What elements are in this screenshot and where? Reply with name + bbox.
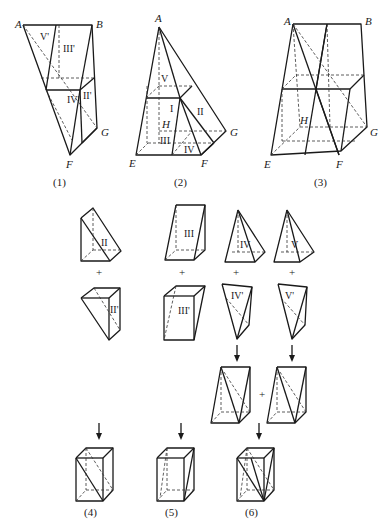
caption-4: (4): [84, 506, 97, 519]
part-label: V': [40, 31, 49, 42]
point-label-G: G: [101, 126, 109, 138]
part-label: V: [291, 239, 299, 250]
part-label: IV: [240, 239, 251, 250]
point-label-B: B: [365, 15, 372, 27]
point-label-H: H: [161, 118, 171, 130]
plus-sign: +: [179, 266, 185, 278]
point-label-F: F: [200, 157, 208, 169]
point-label-F: F: [65, 158, 73, 170]
caption-5: (5): [165, 506, 178, 519]
arrow-down-icon: [256, 423, 262, 440]
point-label-G: G: [370, 126, 378, 138]
piece-V-prime: V': [278, 284, 307, 339]
part-label: IV': [231, 290, 244, 301]
part-label: II: [197, 106, 204, 117]
part-label: II: [101, 237, 108, 248]
figure-5: (5): [157, 448, 194, 519]
arrow-down-icon: [96, 423, 102, 440]
part-label: III': [63, 43, 75, 54]
piece-IV: IV: [225, 210, 265, 262]
point-label-A: A: [14, 18, 22, 30]
part-label: IV': [67, 94, 80, 105]
caption-1: (1): [53, 176, 66, 189]
figure-4: (4): [76, 448, 113, 519]
combined-prism-IV: [211, 367, 250, 423]
point-label-F: F: [335, 158, 343, 170]
figure-6: (6): [237, 448, 274, 519]
figure-1: A B F G V' III' IV' II' (1): [14, 18, 109, 189]
piece-III: III: [165, 205, 205, 260]
plus-sign: +: [96, 266, 102, 278]
piece-II-prime: II': [81, 288, 120, 340]
point-label-G: G: [230, 126, 238, 138]
plus-sign: +: [289, 266, 295, 278]
part-label: I: [170, 103, 173, 114]
part-label: III: [160, 135, 170, 146]
part-label: II': [83, 90, 92, 101]
part-label: V: [161, 73, 169, 84]
arrow-down-icon: [234, 345, 240, 362]
point-label-B: B: [96, 18, 103, 30]
geometry-diagram: A B F G V' III' IV' II' (1) A E F G H V …: [0, 0, 383, 531]
plus-sign: +: [259, 388, 265, 400]
point-label-A: A: [283, 15, 291, 27]
caption-6: (6): [245, 506, 258, 519]
part-label: IV: [184, 144, 195, 155]
piece-IV-prime: IV': [222, 284, 252, 339]
part-label: III': [178, 305, 190, 316]
piece-III-prime: III': [164, 286, 205, 340]
point-label-E: E: [263, 158, 271, 170]
part-label: III: [184, 228, 194, 239]
combined-prism-V: [267, 367, 306, 423]
part-label: V': [285, 290, 294, 301]
point-label-A: A: [154, 12, 162, 24]
caption-3: (3): [314, 176, 327, 189]
figure-2: A E F G H V I II III IV (2): [128, 12, 238, 189]
caption-2: (2): [174, 176, 187, 189]
plus-sign: +: [233, 266, 239, 278]
point-label-E: E: [128, 157, 136, 169]
figure-3: A B E F G H (3): [263, 15, 378, 189]
arrow-down-icon: [289, 345, 295, 362]
piece-V: V: [274, 210, 314, 262]
part-label: II': [110, 304, 119, 315]
piece-II: II: [81, 208, 121, 261]
arrow-down-icon: [178, 423, 184, 440]
point-label-H: H: [299, 114, 309, 126]
